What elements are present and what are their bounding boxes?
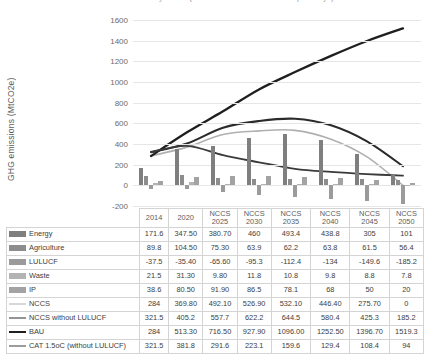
cell-nccs-nccs-2030: 526.90 [237, 297, 271, 311]
gridline [133, 61, 421, 62]
cell-energy-nccs-2050: 101 [389, 227, 423, 241]
column-header-nccs-2035: NCCS2035 [271, 209, 310, 228]
cell-agriculture-nccs-2035: 62.2 [271, 241, 310, 255]
y-tick-label: 1600 [110, 16, 128, 25]
bar-energy [139, 168, 143, 186]
bar-energy [319, 140, 323, 185]
bar-energy [391, 175, 395, 185]
cell-energy-nccs-2030: 460 [237, 227, 271, 241]
cell-bau-nccs-2030: 927.90 [237, 325, 271, 339]
gridline [133, 123, 421, 124]
cell-cat-1-5oc-without-lulucf--nccs-2025: 291.6 [203, 339, 237, 353]
legend-row-waste: Waste [7, 269, 140, 283]
cell-bau-nccs-2040: 1252.50 [311, 325, 350, 339]
cell-nccs-2014: 284 [140, 297, 169, 311]
bar-agriculture [252, 179, 256, 186]
bar-ip [374, 180, 378, 185]
legend-line-stroke [9, 318, 26, 319]
bar-agriculture [396, 180, 400, 186]
plot-canvas [133, 20, 421, 206]
y-tick-label: 1200 [110, 57, 128, 66]
cell-nccs-nccs-2035: 532.10 [271, 297, 310, 311]
cell-nccs-without-lulucf-2020: 405.2 [169, 311, 203, 325]
cell-bau-nccs-2035: 1096.00 [271, 325, 310, 339]
bar-waste [297, 184, 301, 185]
data-table-wrapper: 20142020NCCS2025NCCS2030NCCS2035NCCS2040… [6, 208, 424, 354]
legend-swatch-lulucf [9, 259, 26, 265]
cell-ip-nccs-2035: 78.1 [271, 283, 310, 297]
cell-nccs-nccs-2025: 492.10 [203, 297, 237, 311]
y-tick-label: 1400 [110, 36, 128, 45]
legend-label-bau: BAU [29, 328, 44, 336]
cell-lulucf-2020: -35.40 [169, 255, 203, 269]
column-header-nccs-2050: NCCS2050 [389, 209, 423, 228]
bar-lulucf [365, 185, 369, 200]
legend-row-lulucf: LULUCF [7, 255, 140, 269]
bar-lulucf [293, 185, 297, 197]
cell-waste-nccs-2025: 9.80 [203, 269, 237, 283]
table-row: Agriculture89.8104.5075.3063.962.263.861… [7, 241, 424, 255]
table-row: BAU284513.30716.50927.901096.001252.5013… [7, 325, 424, 339]
cell-energy-2014: 171.6 [140, 227, 169, 241]
bar-agriculture [180, 175, 184, 186]
legend-label-waste: Waste [29, 272, 50, 280]
legend-label-agriculture: Agriculture [29, 244, 64, 252]
legend-row-energy: Energy [7, 227, 140, 241]
column-header-nccs-2045: NCCS2045 [350, 209, 389, 228]
cell-ip-nccs-2050: 20 [389, 283, 423, 297]
cell-nccs-without-lulucf-nccs-2040: 580.4 [311, 311, 350, 325]
bar-energy [355, 154, 359, 186]
bar-lulucf [257, 185, 261, 195]
y-tick-label: 0 [124, 181, 128, 190]
legend-row-cat-1-5oc-without-lulucf-: CAT 1.5oC (without LULUCF) [7, 339, 140, 353]
legend-label-lulucf: LULUCF [29, 258, 58, 266]
cell-waste-nccs-2030: 11.8 [237, 269, 271, 283]
cell-waste-nccs-2045: 8.8 [350, 269, 389, 283]
legend-label-energy: Energy [29, 230, 52, 238]
cell-nccs-without-lulucf-2014: 321.5 [140, 311, 169, 325]
y-axis-ticks: 16001400120010008006004002000-200 [103, 20, 131, 206]
plot-area: GHG emissions (MtCO2e) 16001400120010008… [0, 8, 430, 208]
table-row: NCCS without LULUCF321.5405.2557.7622.26… [7, 311, 424, 325]
cell-lulucf-nccs-2050: -185.2 [389, 255, 423, 269]
bar-waste [189, 182, 193, 185]
gridline [133, 41, 421, 42]
bar-energy [175, 149, 179, 185]
line-nccs-without-lulucf [151, 119, 403, 167]
legend-label-nccs-without-lulucf: NCCS without LULUCF [29, 314, 106, 322]
bar-lulucf [149, 185, 153, 189]
cell-bau-2020: 513.30 [169, 325, 203, 339]
cell-nccs-nccs-2045: 275.70 [350, 297, 389, 311]
table-row: NCCS284369.80492.10526.90532.10446.40275… [7, 297, 424, 311]
bar-waste [261, 184, 265, 185]
line-cat-1-5oc-without-lulucf- [151, 146, 403, 176]
table-header-row: 20142020NCCS2025NCCS2030NCCS2035NCCS2040… [7, 209, 424, 228]
cell-nccs-without-lulucf-nccs-2025: 557.7 [203, 311, 237, 325]
y-tick-label: 800 [115, 98, 128, 107]
legend-row-bau: BAU [7, 325, 140, 339]
bar-agriculture [288, 179, 292, 185]
legend-line-stroke [9, 331, 26, 333]
bar-agriculture [360, 179, 364, 185]
y-tick-label: 600 [115, 119, 128, 128]
cell-ip-nccs-2045: 50 [350, 283, 389, 297]
cell-cat-1-5oc-without-lulucf--nccs-2030: 223.1 [237, 339, 271, 353]
legend-label-cat-1-5oc-without-lulucf-: CAT 1.5oC (without LULUCF) [29, 342, 126, 350]
cell-energy-nccs-2040: 438.8 [311, 227, 350, 241]
y-tick-label: 1000 [110, 78, 128, 87]
table-body: Energy171.6347.50380.70460493.4438.83051… [7, 227, 424, 353]
cell-cat-1-5oc-without-lulucf--nccs-2040: 129.4 [311, 339, 350, 353]
legend-label-ip: IP [29, 286, 36, 294]
bar-ip [194, 177, 198, 185]
legend-swatch-agriculture [9, 245, 26, 251]
legend-swatch-energy [9, 231, 26, 237]
bar-ip [158, 181, 162, 185]
gridline [133, 144, 421, 145]
bar-lulucf [185, 185, 189, 189]
cell-lulucf-nccs-2035: -112.4 [271, 255, 310, 269]
cell-nccs-2020: 369.80 [169, 297, 203, 311]
table-row: CAT 1.5oC (without LULUCF)321.5381.8291.… [7, 339, 424, 353]
cell-nccs-without-lulucf-nccs-2035: 644.5 [271, 311, 310, 325]
legend-line-swatch-cat-1-5oc-without-lulucf- [9, 343, 26, 349]
y-tick-label: 200 [115, 160, 128, 169]
